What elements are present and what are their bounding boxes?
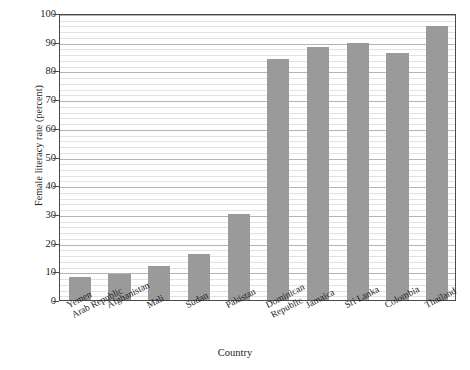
y-tick-mark — [53, 301, 59, 302]
y-tick-mark — [53, 100, 59, 101]
x-axis-title: Country — [0, 347, 470, 358]
y-tick-mark — [53, 129, 59, 130]
y-tick-mark — [53, 272, 59, 273]
bar — [347, 43, 369, 300]
bar — [307, 47, 329, 300]
y-axis-tick-labels: 0102030405060708090100 — [26, 0, 56, 370]
y-tick-mark — [53, 43, 59, 44]
bar-series — [60, 15, 455, 300]
y-tick-mark — [53, 215, 59, 216]
bar — [426, 26, 448, 300]
y-tick-mark — [53, 186, 59, 187]
bar — [228, 214, 250, 300]
x-axis-tick-labels: YemenArab RepublicAfghanistanMaliSudanPa… — [59, 301, 456, 349]
plot-area — [59, 14, 456, 301]
y-tick-mark — [53, 71, 59, 72]
bar — [267, 59, 289, 300]
y-tick-mark — [53, 14, 59, 15]
bar — [386, 53, 408, 300]
y-tick-mark — [53, 244, 59, 245]
bar-chart-figure: Female literacy rate (percent) 010203040… — [0, 0, 470, 370]
y-tick-mark — [53, 158, 59, 159]
